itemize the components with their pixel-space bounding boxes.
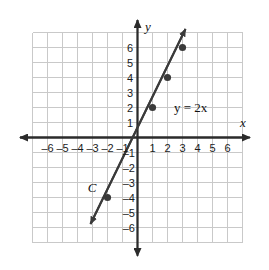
y-tick-label: 1 <box>127 117 133 129</box>
y-tick-label: –1 <box>123 147 135 159</box>
data-point-3-6 <box>179 44 186 51</box>
y-tick-label: –3 <box>123 177 135 189</box>
y-tick-label: –2 <box>123 162 135 174</box>
x-tick-label: –2 <box>101 142 113 154</box>
x-tick-label: –3 <box>86 142 98 154</box>
axes <box>20 20 250 256</box>
y-axis-name: y <box>143 19 151 34</box>
data-point-c <box>104 194 111 201</box>
y-tick-label: 4 <box>127 72 133 84</box>
y-tick-label: –4 <box>123 192 135 204</box>
data-point-1-2 <box>149 104 156 111</box>
y-tick-label: 5 <box>127 57 133 69</box>
x-tick-label: 4 <box>194 142 200 154</box>
y-tick-label: 6 <box>127 42 133 54</box>
x-tick-label: –5 <box>56 142 68 154</box>
y-tick-label: –6 <box>123 222 135 234</box>
x-tick-label: 6 <box>224 142 230 154</box>
y-tick-label: 2 <box>127 102 133 114</box>
x-tick-label: 1 <box>149 142 155 154</box>
y-tick-label: 3 <box>127 87 133 99</box>
graph-canvas: –6 –5 –4 –3 –2 –1 1 2 3 4 5 6 6 5 4 3 2 … <box>0 0 269 270</box>
x-tick-label: –4 <box>71 142 83 154</box>
x-tick-label: 2 <box>164 142 170 154</box>
data-point-2-4 <box>164 74 171 81</box>
x-tick-label: –6 <box>41 142 53 154</box>
x-axis-name: x <box>239 115 246 130</box>
point-c-label: C <box>88 180 97 195</box>
x-tick-label: 5 <box>209 142 215 154</box>
coordinate-graph-figure: –6 –5 –4 –3 –2 –1 1 2 3 4 5 6 6 5 4 3 2 … <box>0 0 269 270</box>
y-tick-label: –5 <box>123 207 135 219</box>
equation-label: y = 2x <box>174 100 208 115</box>
x-tick-label: 3 <box>179 142 185 154</box>
